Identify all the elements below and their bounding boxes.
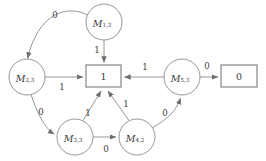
node-box-zero-label: 0 — [236, 71, 242, 82]
node-box-one-label: 1 — [100, 71, 106, 82]
node-m23[interactable]: M2,3 — [9, 59, 45, 95]
node-layer: M1,3 M2,3 M3,3 M4,2 M5,3 — [9, 4, 257, 155]
edge-label-m33-box1: 1 — [85, 108, 90, 118]
edge-label-m23-box1: 1 — [59, 82, 64, 92]
node-m33[interactable]: M3,3 — [57, 119, 93, 155]
diagram-canvas: M1,3 M2,3 M3,3 M4,2 M5,3 — [0, 0, 266, 161]
node-m53[interactable]: M5,3 — [164, 59, 200, 95]
node-m42[interactable]: M4,2 — [119, 119, 155, 155]
edge-label-m42-m53: 0 — [162, 108, 167, 118]
node-m13[interactable]: M1,3 — [86, 4, 122, 40]
edge-label-m33-m42: 0 — [103, 144, 108, 154]
edge-label-m42-box1: 1 — [123, 99, 128, 109]
edge-label-m53-box1: 1 — [142, 62, 147, 72]
edge-label-m53-box0: 0 — [204, 61, 209, 71]
edge-label-m23-m33: 0 — [38, 107, 43, 117]
node-box-one[interactable]: 1 — [86, 65, 121, 87]
automaton-graph: M1,3 M2,3 M3,3 M4,2 M5,3 — [0, 0, 266, 161]
node-box-zero[interactable]: 0 — [221, 65, 257, 87]
edge-label-m13-m23: 0 — [52, 10, 57, 20]
edge-label-m13-box1: 1 — [94, 45, 99, 55]
